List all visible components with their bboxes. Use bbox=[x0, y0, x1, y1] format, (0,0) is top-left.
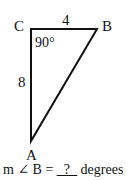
side-label-cb: 4 bbox=[62, 13, 70, 28]
vertex-label-c: C bbox=[14, 19, 24, 34]
side-label-ca: 8 bbox=[18, 75, 26, 90]
angle-label-c: 90° bbox=[35, 36, 55, 50]
answer-blank: _?_ bbox=[57, 162, 77, 177]
question-prefix: m ∠ B = bbox=[3, 162, 57, 177]
question-suffix: degrees bbox=[77, 162, 123, 177]
question-text: m ∠ B = _?_ degrees bbox=[3, 161, 123, 178]
vertex-label-b: B bbox=[102, 19, 112, 34]
